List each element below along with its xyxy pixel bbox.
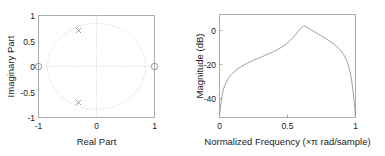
mag-ytick-0: 0	[211, 26, 216, 36]
mag-xaxis-label: Normalized Frequency (×π rad/sample)	[204, 136, 370, 147]
pz-ytick-3: -0.5	[20, 88, 35, 98]
pole-marker-upper	[76, 28, 81, 33]
pz-y-ticklabels: 1 0.5 0 -0.5 -1	[20, 11, 35, 123]
magnitude-curve	[220, 26, 356, 117]
pole-marker-lower	[76, 100, 81, 105]
mag-xtick-1: 0.5	[282, 121, 294, 131]
mag-plot-area	[220, 15, 356, 118]
pz-xaxis-label: Real Part	[77, 136, 117, 147]
mag-xtick-0: 0	[217, 121, 222, 131]
pole-zero-and-magnitude-figure: 1 0.5 0 -0.5 -1 -1 0 1 Real Part Imagina…	[0, 0, 385, 156]
pz-plot-area	[35, 16, 157, 118]
mag-frame	[220, 15, 356, 118]
pole-zero-svg: 1 0.5 0 -0.5 -1 -1 0 1 Real Part Imagina…	[0, 0, 193, 156]
pz-ytick-2: 0	[30, 62, 35, 72]
magnitude-svg: 0 -20 -40 0 0.5 1 Normalized Frequency (…	[193, 0, 385, 156]
pz-ytick-1: 0.5	[23, 37, 35, 47]
mag-x-ticklabels: 0 0.5 1	[217, 121, 358, 131]
pz-x-ticklabels: -1 0 1	[35, 121, 157, 131]
pz-xtick-2: 1	[152, 121, 157, 131]
magnitude-panel: 0 -20 -40 0 0.5 1 Normalized Frequency (…	[193, 0, 385, 156]
pz-xtick-1: 0	[94, 121, 99, 131]
mag-ytick-2: -40	[204, 94, 217, 104]
pz-ytick-0: 1	[30, 11, 35, 21]
pz-yaxis-label: Imaginary Part	[5, 35, 16, 97]
mag-y-ticklabels: 0 -20 -40	[204, 26, 217, 104]
pole-zero-panel: 1 0.5 0 -0.5 -1 -1 0 1 Real Part Imagina…	[0, 0, 193, 156]
pz-xtick-0: -1	[35, 121, 43, 131]
mag-yaxis-label: Magnitude (dB)	[194, 34, 205, 99]
mag-ytick-1: -20	[204, 60, 217, 70]
mag-xtick-2: 1	[353, 121, 358, 131]
